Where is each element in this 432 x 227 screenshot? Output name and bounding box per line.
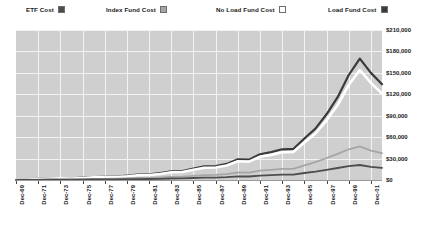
- x-axis-tick-label: Dec-97: [330, 185, 336, 205]
- y-axis-labels: $0$30,000$60,000$90,000$120,000$150,000$…: [386, 30, 432, 180]
- x-axis-tick: [238, 181, 239, 184]
- x-axis-tick: [171, 181, 172, 184]
- x-axis-tick-label: Dec-73: [63, 185, 69, 205]
- x-axis-tick: [216, 181, 217, 184]
- x-axis-tick: [16, 181, 17, 184]
- legend-item-no-load-fund-cost[interactable]: No Load Fund Cost: [216, 6, 286, 13]
- x-axis-tick: [60, 181, 61, 184]
- x-axis-tick-label: Dec-83: [174, 185, 180, 205]
- x-axis-tick: [149, 181, 150, 184]
- legend-label: ETF Cost: [26, 6, 54, 13]
- legend-label: Index Fund Cost: [106, 6, 156, 13]
- x-axis-tick: [327, 181, 328, 184]
- x-axis-tick: [349, 181, 350, 184]
- x-axis-tick-label: Dec-69: [19, 185, 25, 205]
- y-axis-tick-label: $210,000: [386, 27, 411, 33]
- x-axis-tick-label: Dec-93: [285, 185, 291, 205]
- x-axis-tick-label: Dec-79: [130, 185, 136, 205]
- y-axis-tick-label: $120,000: [386, 91, 411, 97]
- x-axis-tick-label: Dec-89: [241, 185, 247, 205]
- plot-area: [16, 30, 382, 180]
- series-lines: [16, 30, 382, 180]
- y-axis-tick-label: $180,000: [386, 48, 411, 54]
- x-axis-tick-label: Dec-81: [152, 185, 158, 205]
- legend-swatch-index-fund-cost: [160, 6, 167, 13]
- chart-legend: ETF CostIndex Fund CostNo Load Fund Cost…: [0, 0, 432, 22]
- x-axis-tick: [304, 181, 305, 184]
- y-axis-tick-label: $0: [386, 177, 393, 183]
- y-axis-tick-label: $60,000: [386, 134, 408, 140]
- x-axis-tick-label: Dec-85: [196, 185, 202, 205]
- series-line-index-fund-cost: [16, 146, 382, 179]
- legend-label: Load Fund Cost: [328, 6, 377, 13]
- legend-swatch-no-load-fund-cost: [279, 6, 286, 13]
- x-axis-tick: [260, 181, 261, 184]
- x-axis-tick-label: Dec-99: [352, 185, 358, 205]
- x-axis-tick-label: Dec-91: [263, 185, 269, 205]
- x-axis-tick: [83, 181, 84, 184]
- legend-swatch-load-fund-cost: [381, 6, 388, 13]
- x-axis-tick: [105, 181, 106, 184]
- x-axis-tick-label: Dec-77: [108, 185, 114, 205]
- x-axis-tick-label: Dec-75: [86, 185, 92, 205]
- y-axis-tick-label: $90,000: [386, 113, 408, 119]
- x-axis-tick: [371, 181, 372, 184]
- x-axis-tick-label: Dec-01: [374, 185, 380, 205]
- x-axis-tick-label: Dec-95: [307, 185, 313, 205]
- x-axis-tick: [193, 181, 194, 184]
- y-axis-tick-label: $150,000: [386, 70, 411, 76]
- x-axis-labels: Dec-69Dec-71Dec-73Dec-75Dec-77Dec-79Dec-…: [16, 185, 382, 227]
- series-line-no-load-fund-cost: [16, 70, 382, 180]
- legend-item-index-fund-cost[interactable]: Index Fund Cost: [106, 6, 167, 13]
- x-axis-tick-label: Dec-87: [219, 185, 225, 205]
- legend-item-load-fund-cost[interactable]: Load Fund Cost: [328, 6, 388, 13]
- chart-screenshot: ETF CostIndex Fund CostNo Load Fund Cost…: [0, 0, 432, 227]
- x-axis-tick: [38, 181, 39, 184]
- x-axis-tick: [282, 181, 283, 184]
- legend-label: No Load Fund Cost: [216, 6, 275, 13]
- x-axis-tick-label: Dec-71: [41, 185, 47, 205]
- x-axis-tick: [127, 181, 128, 184]
- y-axis-tick-label: $30,000: [386, 156, 408, 162]
- legend-swatch-etf-cost: [58, 6, 65, 13]
- legend-item-etf-cost[interactable]: ETF Cost: [26, 6, 65, 13]
